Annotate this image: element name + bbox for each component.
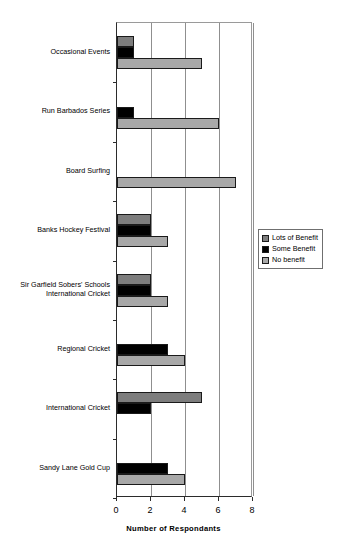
bar-group — [117, 320, 251, 379]
x-tick-8 — [252, 497, 253, 501]
x-tick-6 — [218, 497, 219, 501]
bar-group — [117, 439, 251, 498]
category-label-line: Board Surfing — [0, 166, 110, 176]
category-label: International Cricket — [0, 403, 110, 413]
bars — [117, 36, 251, 69]
bar-no-benefit — [117, 58, 202, 69]
category-label-line: International Cricket — [0, 403, 110, 413]
bar-group — [117, 261, 251, 320]
x-tick-label: 4 — [169, 505, 199, 515]
category-label: Banks Hockey Festival — [0, 225, 110, 235]
legend-item[interactable]: No benefit — [262, 256, 318, 264]
x-tick-2 — [150, 497, 151, 501]
bar-lots-of-benefit — [117, 36, 134, 47]
category-label-line: Run Barbados Series — [0, 106, 110, 116]
bar-lots-of-benefit — [117, 392, 202, 403]
x-tick-4 — [184, 497, 185, 501]
bar-lots-of-benefit — [117, 274, 151, 285]
legend-swatch-icon — [262, 246, 269, 253]
category-label-line: Banks Hockey Festival — [0, 225, 110, 235]
legend-label: No benefit — [272, 256, 305, 264]
x-axis-title: Number of Respondants — [0, 524, 347, 533]
bar-some-benefit — [117, 47, 134, 58]
bars — [117, 333, 251, 366]
bar-some-benefit — [117, 463, 168, 474]
bar-no-benefit — [117, 296, 168, 307]
x-tick-label: 6 — [203, 505, 233, 515]
bar-some-benefit — [117, 344, 168, 355]
category-label-line: International Cricket — [0, 289, 110, 299]
x-tick-label: 8 — [237, 505, 267, 515]
bar-some-benefit — [117, 285, 151, 296]
bars — [117, 214, 251, 247]
legend-item[interactable]: Some Benefit — [262, 245, 318, 253]
bars — [117, 274, 251, 307]
bar-group — [117, 379, 251, 438]
legend-label: Some Benefit — [272, 245, 315, 253]
plot-area — [116, 22, 252, 497]
bar-some-benefit — [117, 107, 134, 118]
bar-some-benefit — [117, 225, 151, 236]
category-label: Sir Garfield Sobers' SchoolsInternationa… — [0, 280, 110, 299]
category-label-line: Regional Cricket — [0, 344, 110, 354]
bar-lots-of-benefit — [117, 214, 151, 225]
bar-no-benefit — [117, 236, 168, 247]
chart-figure: Occasional EventsRun Barbados SeriesBoar… — [0, 0, 347, 559]
bars — [117, 452, 251, 485]
bar-group — [117, 142, 251, 201]
bars — [117, 392, 251, 425]
category-label: Board Surfing — [0, 166, 110, 176]
gridline-x-8 — [253, 23, 254, 496]
category-label-line: Sir Garfield Sobers' Schools — [0, 280, 110, 290]
bars — [117, 155, 251, 188]
bar-no-benefit — [117, 474, 185, 485]
x-tick-0 — [116, 497, 117, 501]
legend-label: Lots of Benefit — [272, 234, 318, 242]
x-tick-label: 0 — [101, 505, 131, 515]
bar-group — [117, 82, 251, 141]
legend-item[interactable]: Lots of Benefit — [262, 234, 318, 242]
bars — [117, 96, 251, 129]
category-label: Occasional Events — [0, 47, 110, 57]
bar-no-benefit — [117, 355, 185, 366]
category-label-line: Sandy Lane Gold Cup — [0, 463, 110, 473]
bar-no-benefit — [117, 177, 236, 188]
category-label: Run Barbados Series — [0, 106, 110, 116]
legend-swatch-icon — [262, 235, 269, 242]
bar-group — [117, 201, 251, 260]
bar-group — [117, 23, 251, 82]
chart-legend: Lots of BenefitSome BenefitNo benefit — [258, 229, 323, 269]
legend-swatch-icon — [262, 257, 269, 264]
category-label: Regional Cricket — [0, 344, 110, 354]
bar-no-benefit — [117, 118, 219, 129]
bar-some-benefit — [117, 403, 151, 414]
category-label: Sandy Lane Gold Cup — [0, 463, 110, 473]
category-label-line: Occasional Events — [0, 47, 110, 57]
x-tick-label: 2 — [135, 505, 165, 515]
